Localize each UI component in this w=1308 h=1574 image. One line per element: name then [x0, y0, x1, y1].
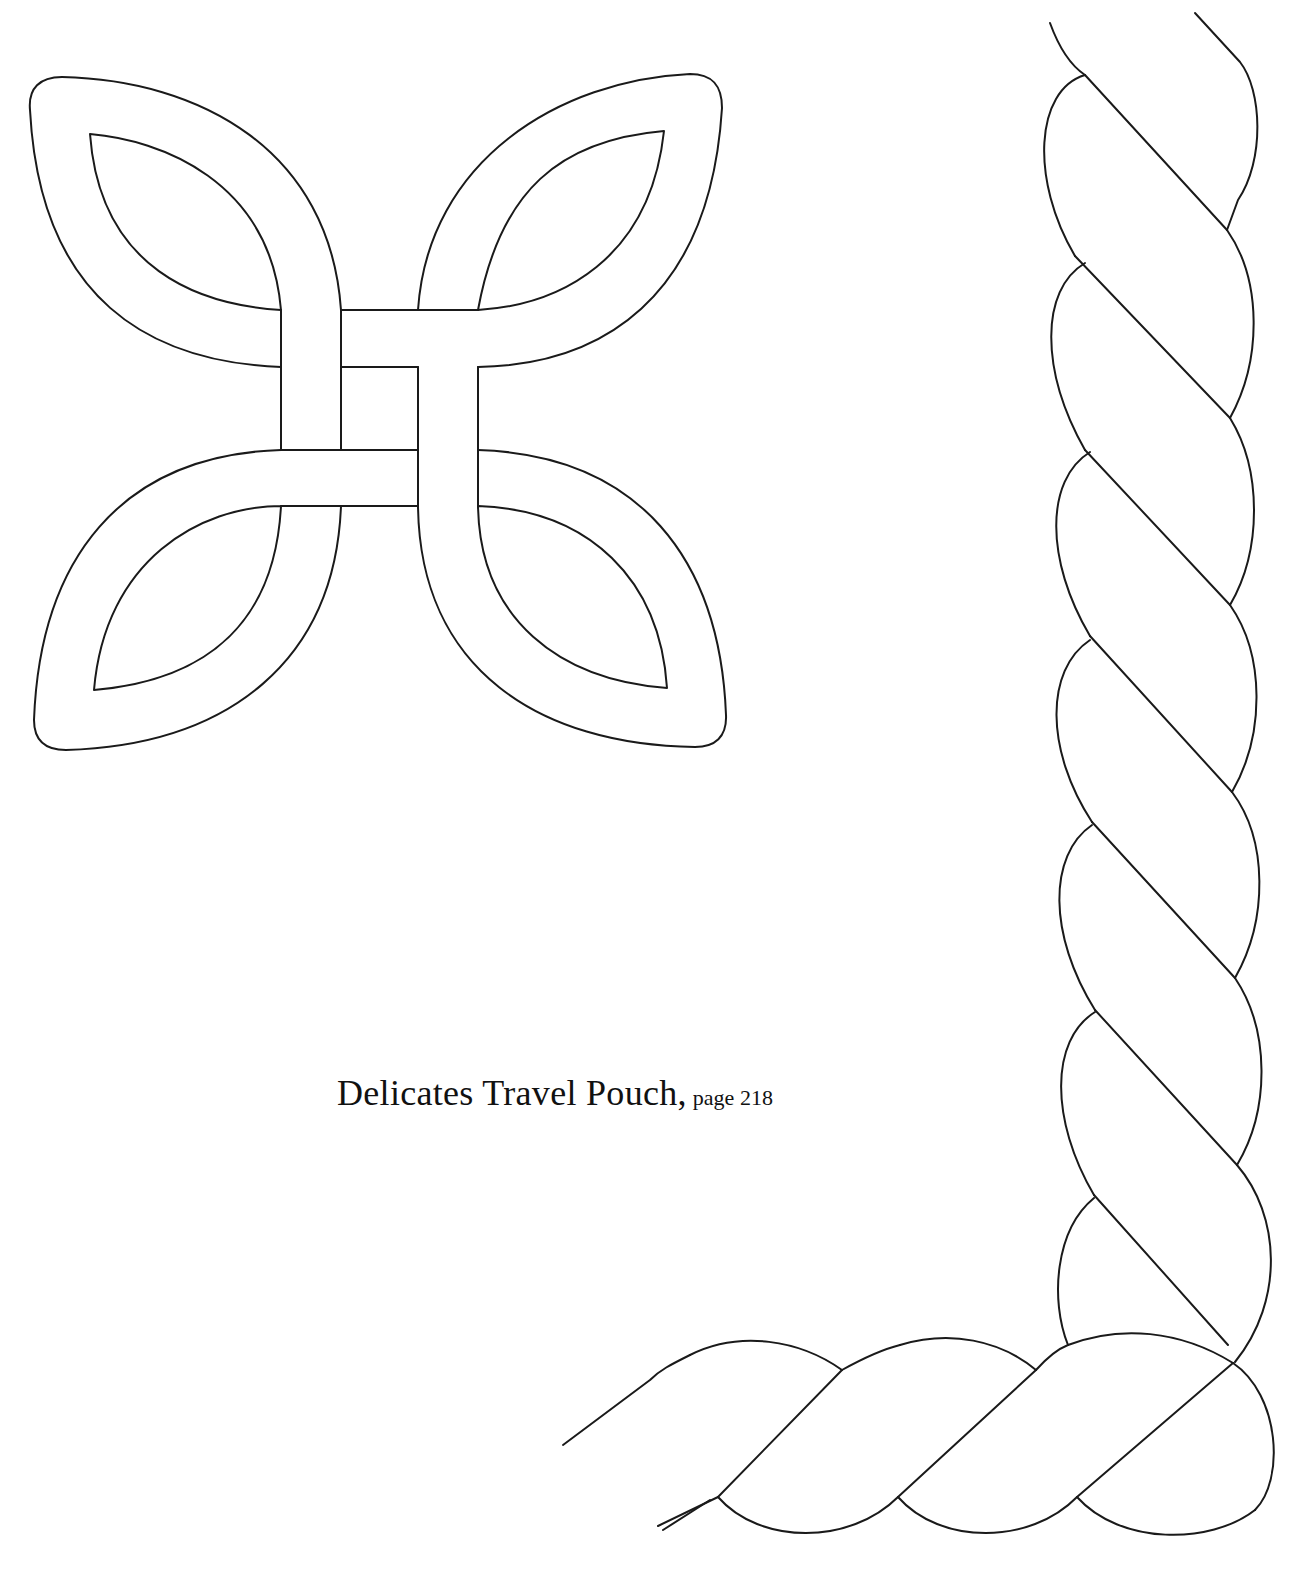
- pattern-page: Delicates Travel Pouch,page 218: [0, 0, 1308, 1574]
- rope-border: [563, 13, 1274, 1535]
- rope-horizontal-strands: [563, 1333, 1274, 1535]
- rope-vertical-strands: [1044, 75, 1271, 1362]
- pattern-caption: Delicates Travel Pouch,page 218: [337, 1072, 773, 1114]
- page-reference: page 218: [693, 1085, 773, 1110]
- knot-motif-illustration: [0, 0, 1308, 1574]
- celtic-knot: [30, 74, 726, 750]
- project-title: Delicates Travel Pouch,: [337, 1073, 687, 1113]
